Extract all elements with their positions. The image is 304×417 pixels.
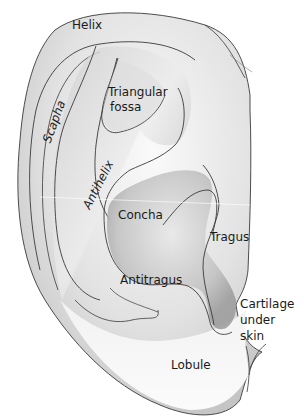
label-triangular-fossa-1: Triangular xyxy=(108,85,168,99)
label-tragus: Tragus xyxy=(210,230,249,244)
label-lobule: Lobule xyxy=(171,358,211,372)
label-concha: Concha xyxy=(118,208,163,222)
label-helix: Helix xyxy=(72,18,102,32)
label-cartilage-3: skin xyxy=(240,329,264,343)
label-triangular-fossa-2: fossa xyxy=(110,100,141,114)
label-antitragus: Antitragus xyxy=(120,273,182,287)
label-cartilage-1: Cartilage xyxy=(240,297,294,311)
label-cartilage-2: under xyxy=(240,313,275,327)
